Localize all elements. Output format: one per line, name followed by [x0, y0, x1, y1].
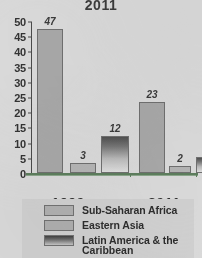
- value-label-2011-sub-saharan-africa: 23: [139, 89, 165, 100]
- bar-1990-latin-america-caribbean[interactable]: [101, 136, 129, 173]
- chart-figure: 2011 50 45 40 35 30 25 20 15 10 5 0: [0, 0, 202, 258]
- y-tick-mark: [28, 128, 32, 129]
- y-tick-label-15: 15: [0, 122, 26, 134]
- y-tick-mark: [28, 158, 32, 159]
- plot-area: 50 45 40 35 30 25 20 15 10 5 0: [0, 16, 202, 178]
- bar-1990-sub-saharan-africa[interactable]: [37, 29, 63, 173]
- y-tick-mark: [28, 37, 32, 38]
- chart-legend: Sub-Saharan Africa Eastern Asia Latin Am…: [22, 199, 194, 258]
- y-tick-mark: [28, 22, 32, 23]
- y-tick-mark: [28, 82, 32, 83]
- value-label-2011-eastern-asia: 2: [167, 153, 193, 164]
- legend-swatch-icon: [44, 235, 74, 246]
- bar-2011-eastern-asia[interactable]: [169, 166, 191, 173]
- legend-swatch-icon: [44, 205, 74, 216]
- y-tick-label-0: 0: [0, 168, 26, 180]
- chart-title: 2011: [0, 0, 202, 13]
- x-tick-mark: [196, 173, 197, 177]
- y-tick-label-25: 25: [0, 92, 26, 104]
- bar-2011-sub-saharan-africa[interactable]: [139, 102, 165, 173]
- legend-swatch-icon: [44, 220, 74, 231]
- y-tick-label-10: 10: [0, 138, 26, 150]
- y-tick-mark: [28, 52, 32, 53]
- y-tick-label-5: 5: [0, 153, 26, 165]
- legend-label-continuation: Caribbean: [82, 244, 133, 256]
- bar-1990-eastern-asia[interactable]: [70, 163, 96, 173]
- y-tick-label-30: 30: [0, 77, 26, 89]
- value-label-2011-latin-america-caribbean: 5: [196, 144, 202, 155]
- x-tick-mark: [130, 173, 131, 177]
- legend-label: Eastern Asia: [82, 219, 144, 231]
- bar-2011-latin-america-caribbean[interactable]: [196, 157, 202, 173]
- x-axis-baseline-shadow: [26, 175, 198, 176]
- value-label-1990-eastern-asia: 3: [70, 150, 96, 161]
- y-tick-mark: [28, 98, 32, 99]
- bar-series-group: 47 3 12 23 2 5: [33, 16, 198, 174]
- value-label-1990-sub-saharan-africa: 47: [37, 16, 63, 27]
- y-tick-label-40: 40: [0, 46, 26, 58]
- y-tick-mark: [28, 143, 32, 144]
- y-tick-label-20: 20: [0, 107, 26, 119]
- y-tick-mark: [28, 113, 32, 114]
- y-tick-label-50: 50: [0, 16, 26, 28]
- y-tick-label-35: 35: [0, 62, 26, 74]
- y-tick-mark: [28, 67, 32, 68]
- legend-label: Sub-Saharan Africa: [82, 204, 177, 216]
- value-label-1990-latin-america-caribbean: 12: [101, 123, 129, 134]
- y-tick-label-45: 45: [0, 31, 26, 43]
